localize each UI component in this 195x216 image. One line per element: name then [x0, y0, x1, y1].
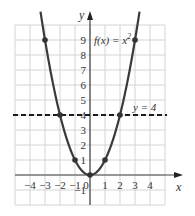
x-tick-label: −2 — [54, 179, 66, 191]
y-tick-label: 2 — [81, 139, 87, 151]
y-tick-label: 7 — [81, 64, 87, 76]
function-label-exponent: 2 — [127, 32, 131, 41]
line-label: y = 4 — [132, 101, 157, 113]
x-tick-label: 1 — [102, 179, 108, 191]
parabola-chart: −4−3−2−101234−1123456789 x y f(x) = x2 y… — [0, 0, 195, 216]
x-tick-label: 4 — [147, 179, 153, 191]
x-axis-label: x — [175, 180, 182, 194]
y-tick-label: 1 — [81, 154, 87, 166]
y-axis-label: y — [78, 8, 85, 22]
x-tick-label: 3 — [132, 179, 138, 191]
data-point — [117, 112, 123, 118]
y-tick-label: 5 — [81, 94, 87, 106]
y-tick-label: 6 — [81, 79, 87, 91]
data-point — [57, 112, 63, 118]
y-tick-label: 9 — [81, 34, 87, 46]
data-point — [132, 37, 138, 43]
data-point — [102, 157, 108, 163]
x-tick-label: −3 — [39, 179, 51, 191]
function-label-main: f(x) = x — [94, 34, 127, 47]
y-tick-label: 8 — [81, 49, 87, 61]
function-label: f(x) = x2 — [94, 32, 131, 47]
x-axis-arrow-icon — [174, 172, 183, 178]
x-tick-label: −4 — [24, 179, 36, 191]
data-point — [42, 37, 48, 43]
data-point — [87, 172, 93, 178]
x-tick-label: 2 — [117, 179, 123, 191]
y-axis-arrow-icon — [87, 11, 93, 20]
y-tick-label: −1 — [74, 184, 86, 196]
data-point — [72, 157, 78, 163]
y-tick-label: 3 — [81, 124, 87, 136]
